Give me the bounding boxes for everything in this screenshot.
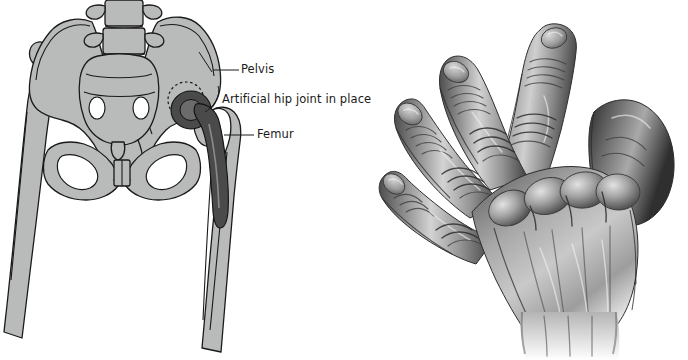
rheumatoid-arthritis-hand: .wr { fill:none; stroke:#3c3c3c; stroke-… [344, 0, 688, 360]
hand-illustration-svg: .wr { fill:none; stroke:#3c3c3c; stroke-… [344, 0, 688, 360]
wrist [520, 312, 619, 360]
label-femur: Femur [257, 128, 294, 141]
hip-replacement-diagram: .bone { fill:#b9bbbb; stroke:#1a1a1a; st… [0, 0, 344, 360]
figure-root: .bone { fill:#b9bbbb; stroke:#1a1a1a; st… [0, 0, 688, 360]
hand-dorsum [472, 167, 641, 332]
hip-diagram-svg: .bone { fill:#b9bbbb; stroke:#1a1a1a; st… [0, 0, 344, 360]
label-pelvis: Pelvis [241, 63, 274, 76]
